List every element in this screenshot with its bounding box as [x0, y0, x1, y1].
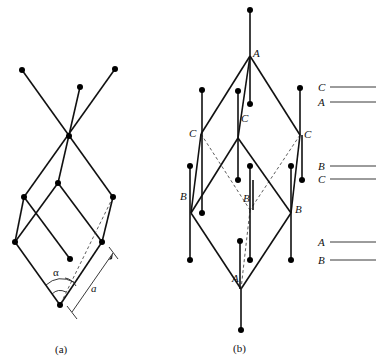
legend-label: C: [318, 173, 326, 185]
legend-label: B: [318, 254, 325, 266]
vertex-label-upper-center: C: [241, 112, 249, 124]
panel-a-structure: α a (a): [12, 66, 118, 356]
angle-label: α: [53, 266, 59, 278]
lattice-figure: α a (a): [0, 0, 384, 363]
stacking-legend: C A B C A B: [317, 81, 376, 266]
vertex-label-top: A: [252, 47, 260, 59]
legend-label: A: [317, 236, 325, 248]
panel-a-caption: (a): [55, 343, 68, 356]
vertex-label-lower-right: B: [295, 203, 302, 215]
panel-b-structure: A C C C B B B A (b): [180, 7, 312, 355]
vertex-label-upper-left: C: [189, 127, 197, 139]
vertex-label-upper-right: C: [304, 128, 312, 140]
legend-label: B: [318, 160, 325, 172]
panel-b-caption: (b): [233, 342, 246, 355]
panel-b-nodes: [187, 7, 305, 333]
vertex-label-lower-center: B: [243, 192, 250, 204]
vertex-label-bottom: A: [231, 272, 239, 284]
panel-a-nodes: [12, 66, 118, 308]
legend-label: A: [317, 96, 325, 108]
legend-label: C: [318, 81, 326, 93]
vertex-label-lower-left: B: [180, 190, 187, 202]
length-label: a: [91, 282, 97, 294]
